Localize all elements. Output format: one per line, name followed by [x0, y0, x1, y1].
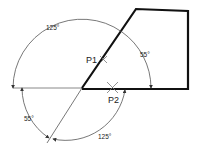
angle-label-125-upper: 125° — [46, 24, 60, 31]
angle-label-125-lower: 125° — [98, 133, 112, 140]
angle-construction-diagram: 125° 55° 55° 125° P1 P2 — [0, 0, 199, 153]
angle-label-55-lower: 55° — [24, 115, 34, 122]
p2-cross-mark — [107, 82, 118, 93]
angle-label-55-upper: 55° — [140, 51, 150, 58]
construction-line-extension — [47, 88, 82, 143]
point-label-p1: P1 — [86, 55, 97, 65]
arc-55-upper — [122, 32, 151, 88]
point-label-p2: P2 — [108, 95, 119, 105]
arc-55-lower — [22, 88, 49, 138]
